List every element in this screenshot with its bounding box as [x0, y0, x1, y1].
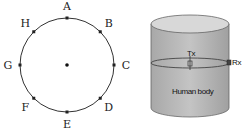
cylinder-body [151, 24, 229, 117]
point-label-d: D [104, 101, 113, 114]
cylinder-top [151, 15, 229, 33]
point-marker-g [19, 64, 22, 67]
point-marker-a [66, 17, 69, 20]
point-label-e: E [63, 118, 71, 130]
point-marker-d [99, 97, 102, 100]
body-label: Human body [172, 87, 214, 96]
point-label-f: F [21, 101, 29, 114]
rx-node [227, 60, 231, 65]
point-marker-c [113, 64, 116, 67]
point-label-h: H [20, 17, 30, 30]
point-marker-e [66, 111, 69, 114]
point-marker-b [99, 30, 102, 33]
point-label-c: C [122, 59, 130, 72]
point-marker-h [32, 30, 35, 33]
circle-diagram: ABCDEFGH [4, 0, 131, 130]
diagram-canvas: ABCDEFGH Tx Rx Human body [0, 0, 244, 130]
cylinder-diagram: Tx Rx Human body [151, 15, 241, 117]
point-label-b: B [105, 17, 113, 30]
point-marker-f [32, 97, 35, 100]
point-label-g: G [4, 59, 13, 72]
rx-label: Rx [232, 58, 241, 67]
point-label-a: A [62, 0, 72, 13]
tx-label: Tx [187, 49, 195, 58]
center-dot [65, 63, 69, 67]
